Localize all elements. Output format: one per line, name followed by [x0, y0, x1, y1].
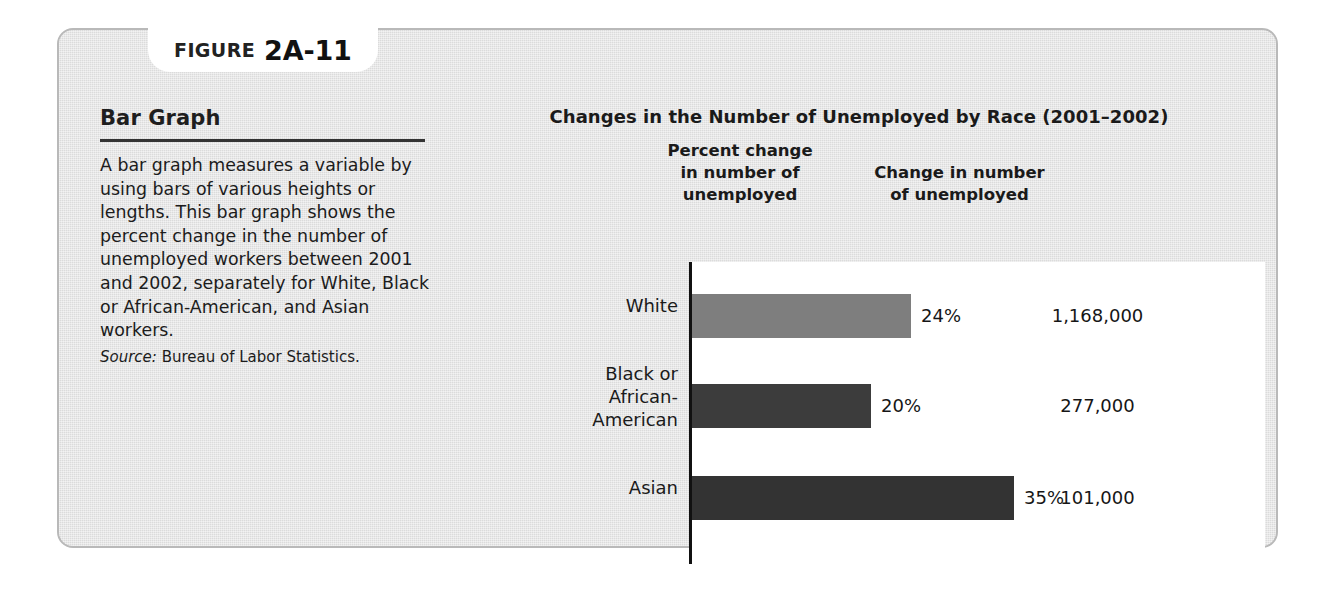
bar-black-or-african-american: [692, 384, 871, 428]
figure-tab: FIGURE 2A-11: [148, 28, 378, 72]
category-label-asian: Asian: [518, 476, 678, 499]
figure-card: FIGURE 2A-11 Bar Graph A bar graph measu…: [57, 28, 1278, 548]
bar-value-black-or-african-american: 20%: [881, 384, 921, 428]
figure-number: 2A-11: [264, 35, 351, 66]
column-header-percent-change: Percent change in number of unemployed: [645, 140, 835, 206]
bar-asian: [692, 476, 1014, 520]
plot-area: White 24% 1,168,000 Black or African- Am…: [689, 262, 1265, 564]
description-panel: Bar Graph A bar graph measures a variabl…: [100, 106, 440, 368]
panel-title: Bar Graph: [100, 106, 440, 130]
bar-row: Black or African- American 20% 277,000: [689, 384, 1265, 428]
source-line: Source: Bureau of Labor Statistics.: [100, 347, 440, 368]
chart: Changes in the Number of Unemployed by R…: [459, 106, 1259, 214]
chart-column-headers: Percent change in number of unemployed C…: [459, 140, 1259, 214]
figure-label: FIGURE: [174, 39, 255, 61]
bar-row: Asian 35% 101,000: [689, 476, 1265, 520]
bar-white: [692, 294, 911, 338]
chart-title: Changes in the Number of Unemployed by R…: [459, 106, 1259, 127]
count-white: 1,168,000: [1010, 294, 1185, 338]
source-label: Source:: [100, 348, 157, 366]
count-asian: 101,000: [1010, 476, 1185, 520]
source-text: Bureau of Labor Statistics.: [157, 348, 360, 366]
count-black-or-african-american: 277,000: [1010, 384, 1185, 428]
column-header-change-in-number: Change in number of unemployed: [852, 162, 1067, 206]
bar-value-white: 24%: [921, 294, 961, 338]
category-label-white: White: [518, 294, 678, 317]
category-label-black-or-african-american: Black or African- American: [518, 362, 678, 431]
panel-body-text: A bar graph measures a variable by using…: [100, 154, 433, 343]
title-divider: [100, 139, 425, 142]
bar-row: White 24% 1,168,000: [689, 294, 1265, 338]
